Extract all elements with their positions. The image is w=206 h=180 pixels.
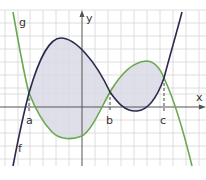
curve-g-label: g <box>19 16 26 29</box>
point-c-label: c <box>160 114 166 127</box>
point-b-label: b <box>106 114 113 127</box>
curve-f-label: f <box>18 142 23 155</box>
point-a-label: a <box>26 114 33 127</box>
area-between-curves-diagram: x y a b c g f <box>0 0 206 180</box>
y-axis-label: y <box>86 12 93 25</box>
shaded-region-a-b <box>29 38 110 139</box>
x-axis-label: x <box>196 91 203 104</box>
shaded-region-b-c <box>110 61 164 111</box>
